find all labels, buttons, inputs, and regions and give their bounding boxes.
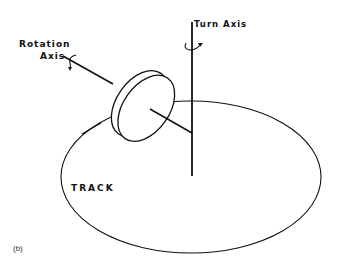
rotation-axis-label-line2: Axis xyxy=(40,51,65,61)
turn-axis-label: Turn Axis xyxy=(194,19,247,29)
rotation-axis-label-line1: Rotation xyxy=(19,39,70,49)
wheel-disc xyxy=(100,60,187,152)
figure-tag: (b) xyxy=(13,244,23,253)
track-label: TRACK xyxy=(71,183,115,193)
